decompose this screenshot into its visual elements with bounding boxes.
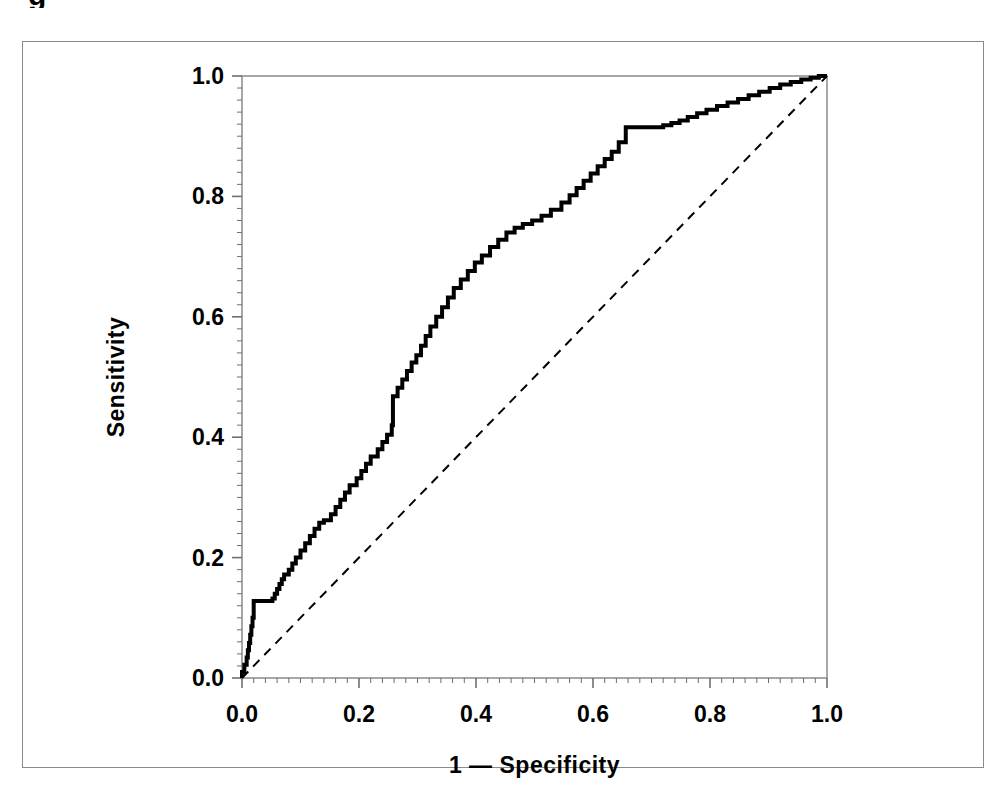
y-tick-labels: 0.00.20.40.60.81.0: [192, 63, 224, 691]
x-tick-label: 0.0: [226, 701, 258, 727]
roc-chart: 0.00.20.40.60.81.00.00.20.40.60.81.01 — …: [0, 0, 1004, 792]
y-tick-label: 0.0: [192, 665, 224, 691]
y-tick-label: 0.4: [192, 424, 224, 450]
x-tick-label: 0.2: [343, 701, 375, 727]
x-tick-label: 1.0: [811, 701, 843, 727]
y-tick-label: 0.2: [192, 545, 224, 571]
x-axis-title: 1 — Specificity: [449, 752, 620, 778]
reference-diagonal-line: [242, 76, 827, 678]
y-tick-label: 0.8: [192, 183, 224, 209]
x-tick-label: 0.6: [577, 701, 609, 727]
y-tick-label: 0.6: [192, 304, 224, 330]
x-tick-label: 0.8: [694, 701, 726, 727]
x-tick-label: 0.4: [460, 701, 492, 727]
y-axis-title: Sensitivity: [103, 317, 129, 438]
roc-plot-svg: 0.00.20.40.60.81.00.00.20.40.60.81.01 — …: [0, 0, 1004, 792]
x-tick-labels: 0.00.20.40.60.81.0: [226, 701, 843, 727]
y-tick-label: 1.0: [192, 63, 224, 89]
